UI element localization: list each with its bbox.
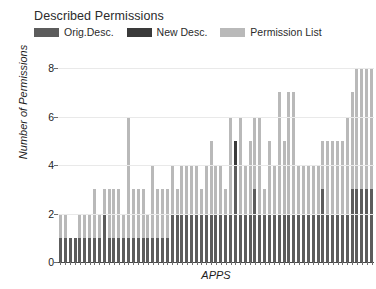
bar-segment (122, 238, 125, 262)
bar-segment (360, 189, 363, 262)
bar (341, 141, 344, 262)
bar (69, 238, 72, 262)
bar-segment (263, 189, 266, 213)
bar-segment (127, 238, 130, 262)
x-tickmark (109, 262, 110, 265)
bar (283, 141, 286, 262)
bar-segment (185, 214, 188, 263)
bar (239, 117, 242, 263)
bar-segment (59, 238, 62, 262)
x-tickmark (318, 262, 319, 265)
bar (326, 141, 329, 262)
bar-segment (219, 165, 222, 214)
bar (137, 189, 140, 262)
chart-plot-area: Number of Permissions APPS 02468 (0, 0, 376, 289)
x-tickmark (221, 262, 222, 265)
y-tickmark-4 (54, 165, 58, 166)
bar-segment (83, 214, 86, 238)
bar-segment (205, 214, 208, 263)
x-tickmark (172, 262, 173, 265)
bar-segment (210, 141, 213, 214)
bar-segment (263, 214, 266, 263)
x-tickmark (104, 262, 105, 265)
bar-segment (355, 189, 358, 262)
bar-segment (351, 189, 354, 262)
bar-segment (74, 238, 77, 262)
bar-segment (355, 68, 358, 189)
bar-segment (258, 214, 261, 263)
bar-segment (151, 165, 154, 238)
bar-segment (302, 214, 305, 263)
gridline-8 (58, 68, 374, 69)
bar (346, 117, 349, 263)
bar-group (58, 0, 374, 289)
bar-segment (346, 214, 349, 263)
bar (351, 92, 354, 262)
bar (210, 141, 213, 262)
bar-segment (307, 165, 310, 214)
x-tickmark (342, 262, 343, 265)
bar (132, 189, 135, 262)
bar-segment (224, 214, 227, 263)
bar-segment (59, 214, 62, 238)
bar-segment (171, 214, 174, 263)
bar-segment (200, 214, 203, 263)
x-tickmark (250, 262, 251, 265)
x-tickmark (163, 262, 164, 265)
bar-segment (78, 214, 81, 238)
y-tickmark-6 (54, 117, 58, 118)
bar-segment (214, 214, 217, 263)
bar-segment (292, 214, 295, 263)
bar-segment (302, 165, 305, 214)
bar-segment (176, 214, 179, 263)
bar-segment (219, 214, 222, 263)
bar-segment (287, 92, 290, 213)
x-tickmark (323, 262, 324, 265)
bar-segment (146, 238, 149, 262)
bar-segment (98, 238, 101, 262)
bar-segment (336, 214, 339, 263)
bar-segment (365, 189, 368, 262)
bar-segment (268, 141, 271, 214)
bar-segment (195, 165, 198, 214)
x-tickmark (124, 262, 125, 265)
x-tickmark (260, 262, 261, 265)
bar-segment (205, 165, 208, 214)
bar (249, 141, 252, 262)
y-tick-label-4: 4 (32, 159, 54, 171)
bar (336, 141, 339, 262)
x-tickmark (313, 262, 314, 265)
x-tickmark (206, 262, 207, 265)
bar (146, 214, 149, 263)
y-tickmark-0 (54, 262, 58, 263)
x-tickmark (60, 262, 61, 265)
bar-segment (336, 141, 339, 214)
bar (234, 141, 237, 262)
bar (268, 141, 271, 262)
bar-segment (64, 214, 67, 238)
x-tickmark (328, 262, 329, 265)
bar-segment (229, 214, 232, 263)
bar-segment (83, 238, 86, 262)
bar-segment (117, 238, 120, 262)
bar (229, 117, 232, 263)
x-tickmark (167, 262, 168, 265)
bar-segment (98, 214, 101, 238)
x-tickmark (187, 262, 188, 265)
x-tickmark (143, 262, 144, 265)
bar-segment (317, 214, 320, 263)
bar (287, 92, 290, 262)
x-tickmark (279, 262, 280, 265)
bar-segment (224, 189, 227, 213)
bar-segment (180, 165, 183, 214)
bar (98, 214, 101, 263)
x-tickmark (192, 262, 193, 265)
x-tickmark (216, 262, 217, 265)
x-tickmark (138, 262, 139, 265)
bar-segment (321, 189, 324, 262)
bar-segment (253, 189, 256, 262)
bar-segment (166, 238, 169, 262)
x-tickmark (90, 262, 91, 265)
bar-segment (283, 141, 286, 214)
x-tickmark (240, 262, 241, 265)
